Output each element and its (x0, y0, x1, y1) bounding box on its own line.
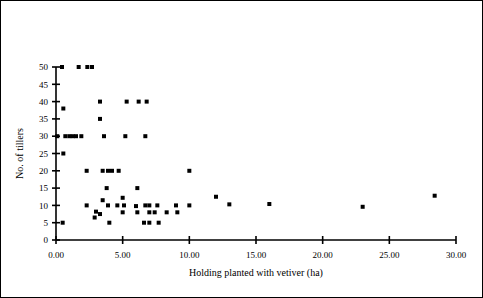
data-point (147, 203, 151, 207)
data-point (61, 107, 65, 111)
y-tick-label: 50 (39, 62, 49, 72)
data-point (60, 65, 64, 69)
figure-frame: 0.005.0010.0015.0020.0025.0030.000510152… (0, 0, 483, 298)
data-point (61, 152, 65, 156)
data-point (101, 169, 105, 173)
data-point (147, 210, 151, 214)
data-point (165, 210, 169, 214)
x-tick-label: 30.00 (446, 250, 467, 260)
data-point (123, 134, 127, 138)
data-point (85, 169, 89, 173)
x-tick-label: 10.00 (179, 250, 200, 260)
data-point (102, 134, 106, 138)
data-point (134, 204, 138, 208)
data-point (85, 65, 89, 69)
data-point (157, 221, 161, 225)
x-tick-label: 20.00 (313, 250, 334, 260)
y-tick-label: 45 (39, 80, 49, 90)
data-point (94, 210, 98, 214)
data-point (135, 186, 139, 190)
data-point (137, 100, 141, 104)
data-point (101, 198, 105, 202)
data-point (106, 203, 110, 207)
data-point (155, 203, 159, 207)
data-point (93, 216, 97, 220)
x-tick-label: 0.00 (48, 250, 64, 260)
data-point (121, 210, 125, 214)
data-point (147, 221, 151, 225)
data-point (105, 186, 109, 190)
data-point (153, 210, 157, 214)
data-point (142, 221, 146, 225)
data-point (227, 202, 231, 206)
data-point (145, 100, 149, 104)
data-point (121, 196, 125, 200)
data-point (214, 195, 218, 199)
data-point (79, 134, 83, 138)
data-point (187, 169, 191, 173)
data-point (361, 205, 365, 209)
y-tick-label: 10 (39, 201, 49, 211)
y-tick-label: 30 (39, 131, 49, 141)
data-point (110, 169, 114, 173)
data-point (135, 210, 139, 214)
y-tick-label: 20 (39, 166, 49, 176)
data-point (85, 203, 89, 207)
data-point (174, 203, 178, 207)
y-tick-label: 40 (39, 97, 49, 107)
data-point (175, 210, 179, 214)
data-point (98, 100, 102, 104)
data-point (143, 134, 147, 138)
data-point (117, 169, 121, 173)
data-point (187, 203, 191, 207)
x-tick-label: 15.00 (246, 250, 267, 260)
x-tick-label: 5.00 (115, 250, 131, 260)
y-tick-label: 35 (39, 114, 49, 124)
y-tick-label: 15 (39, 183, 49, 193)
data-point (106, 169, 110, 173)
data-point (267, 202, 271, 206)
data-point (125, 100, 129, 104)
data-point (63, 134, 67, 138)
data-point (55, 134, 59, 138)
y-tick-label: 5 (44, 218, 49, 228)
data-point (115, 203, 119, 207)
data-point (122, 203, 126, 207)
x-tick-label: 25.00 (379, 250, 400, 260)
data-point (143, 203, 147, 207)
scatter-plot: 0.005.0010.0015.0020.0025.0030.000510152… (1, 1, 483, 298)
data-point (107, 221, 111, 225)
x-axis-title: Holding planted with vetiver (ha) (189, 267, 323, 279)
data-point (77, 65, 81, 69)
data-point (74, 134, 78, 138)
data-point (433, 194, 437, 198)
y-tick-label: 25 (39, 149, 49, 159)
data-point (90, 65, 94, 69)
y-tick-label: 0 (44, 235, 49, 245)
data-point (61, 221, 65, 225)
data-point (98, 212, 102, 216)
y-axis-title: No. of tillers (14, 128, 25, 179)
data-point (98, 117, 102, 121)
